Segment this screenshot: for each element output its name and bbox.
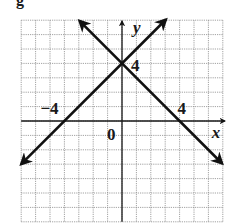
origin-label: 0 xyxy=(107,125,116,144)
x-tick-label-neg4: −4 xyxy=(40,99,59,118)
axis-labels: −4440xy xyxy=(40,18,220,144)
x-axis-label: x xyxy=(211,123,221,142)
y-tick-label-4: 4 xyxy=(131,56,140,75)
y-axis-label: y xyxy=(131,18,141,37)
x-tick-label-4: 4 xyxy=(178,99,187,118)
coordinate-graph: −4440xy xyxy=(0,0,233,224)
